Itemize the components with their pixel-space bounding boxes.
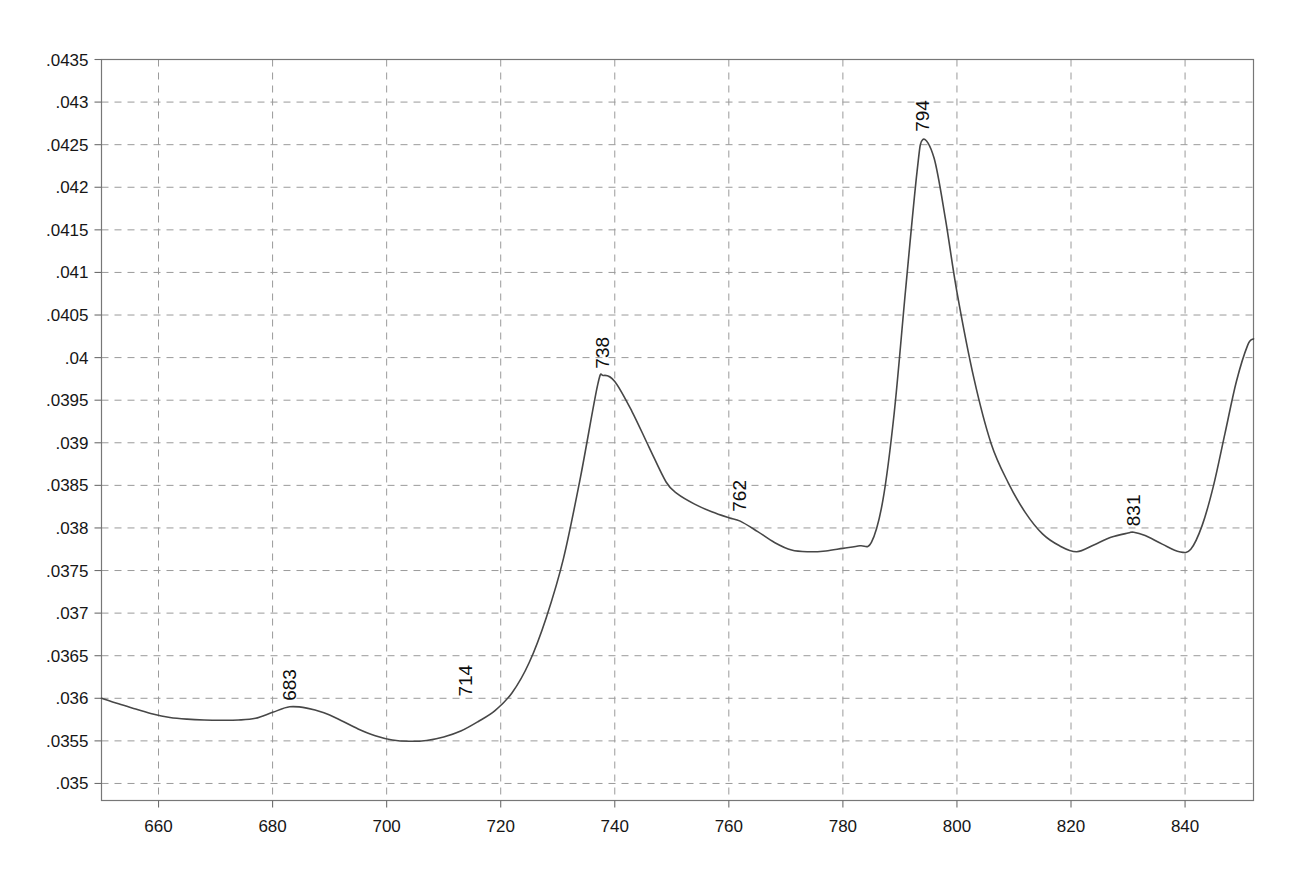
peak-label-794: 794 [912,100,933,132]
y-tick-label: .0425 [46,136,89,155]
x-tick-label: 820 [1057,817,1085,836]
chart-container: .035.0355.036.0365.037.0375.038.0385.039… [0,0,1304,869]
x-tick-labels: 660680700720740760780800820840 [144,817,1199,836]
x-tick-label: 700 [372,817,400,836]
x-tick-label: 660 [144,817,172,836]
y-tick-label: .0355 [46,732,89,751]
y-tick-label: .042 [55,178,88,197]
y-tick-label: .0395 [46,391,89,410]
y-tick-labels: .035.0355.036.0365.037.0375.038.0385.039… [46,51,89,794]
peak-label-831: 831 [1123,495,1144,527]
peak-label-762: 762 [729,480,750,512]
x-tick-label: 740 [601,817,629,836]
y-tick-label: .0385 [46,476,89,495]
y-tick-label: .037 [55,604,88,623]
x-tick-label: 800 [943,817,971,836]
y-tick-label: .0375 [46,562,89,581]
plot-frame [102,60,1254,801]
x-tick-label: 760 [715,817,743,836]
grid-lines [102,60,1254,801]
peak-label-683: 683 [279,669,300,701]
y-tick-label: .035 [55,774,88,793]
y-tick-label: .038 [55,519,88,538]
y-tick-label: .043 [55,93,88,112]
x-tick-label: 680 [258,817,286,836]
tick-marks [95,60,1186,808]
y-tick-label: .0365 [46,647,89,666]
y-tick-label: .04 [65,349,89,368]
spectrum-plot: .035.0355.036.0365.037.0375.038.0385.039… [0,0,1304,869]
y-tick-label: .041 [55,263,88,282]
y-tick-label: .0435 [46,51,89,70]
y-tick-label: .0415 [46,221,89,240]
x-tick-label: 720 [487,817,515,836]
x-tick-label: 780 [829,817,857,836]
y-tick-label: .0405 [46,306,89,325]
peak-label-714: 714 [455,664,476,696]
peak-label-738: 738 [592,337,613,369]
y-tick-label: .036 [55,689,88,708]
y-tick-label: .039 [55,434,88,453]
x-tick-label: 840 [1171,817,1199,836]
